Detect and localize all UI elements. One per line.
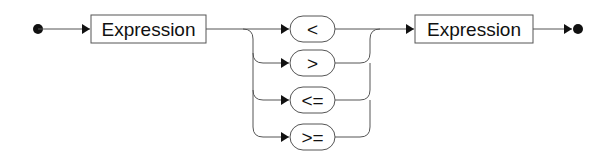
branch-connector-gt <box>253 53 289 63</box>
join-connector-le <box>335 63 370 100</box>
operator-lt-node: < <box>290 16 335 42</box>
branch-connector-le <box>253 90 289 100</box>
railroad-diagram: Expression < > <= >= Expression <box>0 0 602 154</box>
right-expression-label: Expression <box>427 19 521 40</box>
join-connector-gt <box>335 29 380 63</box>
left-expression-node: Expression <box>91 15 206 43</box>
operator-le-node: <= <box>290 87 335 113</box>
right-expression-node: Expression <box>415 15 533 43</box>
left-expression-label: Expression <box>102 19 196 40</box>
operator-gt-node: > <box>290 50 335 76</box>
operator-gt-label: > <box>307 53 318 74</box>
end-dot-icon <box>573 24 583 34</box>
operator-le-label: <= <box>301 90 323 111</box>
left-fork-rail <box>243 29 253 127</box>
branch-connector-ge <box>253 127 289 137</box>
operator-lt-label: < <box>307 19 318 40</box>
operator-ge-node: >= <box>290 124 335 150</box>
join-connector-ge <box>335 100 370 137</box>
operator-ge-label: >= <box>301 127 323 148</box>
